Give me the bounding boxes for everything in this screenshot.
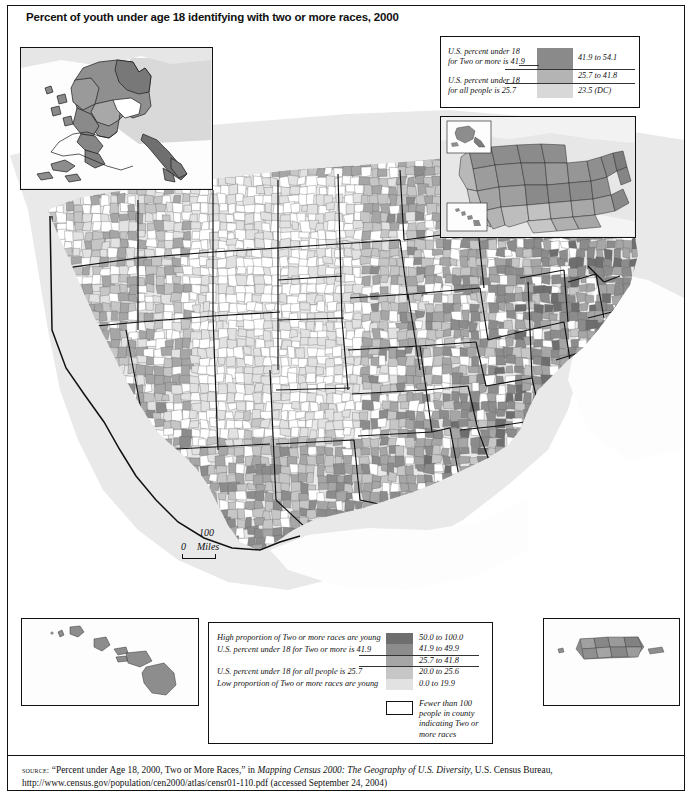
county-polygon <box>489 274 501 282</box>
county-polygon <box>263 275 273 285</box>
county-polygon <box>216 248 225 259</box>
legend-main-swatch-column <box>386 633 413 690</box>
county-polygon <box>379 355 386 365</box>
county-polygon <box>218 348 228 359</box>
county-polygon <box>388 393 399 402</box>
county-polygon <box>316 455 324 465</box>
county-polygon <box>203 301 210 312</box>
county-polygon <box>405 465 413 475</box>
county-polygon <box>146 302 154 310</box>
source-text-1: “Percent under Age 18, 2000, Two or More… <box>52 765 258 775</box>
county-polygon <box>318 230 326 240</box>
county-polygon <box>533 329 543 341</box>
county-polygon <box>468 366 480 373</box>
county-polygon <box>252 446 261 456</box>
county-polygon <box>459 456 471 464</box>
county-polygon <box>263 285 272 295</box>
county-polygon <box>440 258 452 267</box>
county-polygon <box>162 395 170 401</box>
county-polygon <box>73 248 80 256</box>
county-polygon <box>353 393 362 402</box>
county-polygon <box>350 375 358 384</box>
county-polygon <box>307 473 314 483</box>
county-polygon <box>244 204 256 213</box>
county-polygon <box>273 402 284 409</box>
alaska-inset[interactable]: 100 0 Miles <box>20 47 213 190</box>
county-polygon <box>154 313 163 320</box>
county-polygon <box>208 322 217 331</box>
puerto-rico-inset[interactable]: 0 100 Miles <box>543 618 680 706</box>
legend-main-nodata-line-3: indicating Two or <box>419 719 478 729</box>
county-polygon <box>309 238 317 249</box>
county-polygon <box>441 285 451 295</box>
county-polygon <box>570 277 579 288</box>
legend-top-swatch-2 <box>537 83 573 98</box>
county-polygon <box>496 356 506 365</box>
county-polygon <box>174 302 182 314</box>
legend-main-nodata-swatch <box>386 701 413 715</box>
county-polygon <box>496 429 506 439</box>
county-polygon <box>334 365 344 376</box>
county-polygon <box>154 220 165 231</box>
county-polygon <box>163 312 172 320</box>
county-polygon <box>190 355 201 364</box>
county-polygon <box>362 474 374 484</box>
county-polygon <box>256 185 265 193</box>
county-polygon <box>164 428 174 435</box>
county-polygon <box>351 166 361 176</box>
county-polygon <box>373 203 380 212</box>
county-polygon <box>308 447 317 456</box>
county-polygon <box>460 356 470 366</box>
county-polygon <box>505 337 513 346</box>
county-polygon <box>369 463 378 475</box>
county-polygon <box>190 383 199 393</box>
county-polygon <box>460 239 471 248</box>
state-inset[interactable] <box>440 116 636 238</box>
county-polygon <box>201 285 209 293</box>
county-polygon <box>459 320 469 329</box>
county-polygon <box>333 463 345 474</box>
county-polygon <box>174 213 181 223</box>
legend-top-rule-2 <box>505 83 635 84</box>
county-polygon <box>397 375 407 383</box>
county-polygon <box>496 409 506 417</box>
county-polygon <box>450 410 460 422</box>
county-polygon <box>405 366 416 376</box>
county-polygon <box>368 346 379 354</box>
county-polygon <box>156 276 164 286</box>
county-polygon <box>316 301 324 312</box>
county-polygon <box>252 437 263 444</box>
county-polygon <box>182 193 190 202</box>
source-divider <box>8 755 685 756</box>
county-polygon <box>431 438 442 446</box>
county-polygon <box>454 285 463 293</box>
county-polygon <box>152 257 163 267</box>
county-polygon <box>417 230 426 240</box>
county-polygon <box>252 374 262 383</box>
county-polygon <box>587 247 595 259</box>
county-polygon <box>372 185 382 194</box>
county-polygon <box>74 212 83 224</box>
county-polygon <box>110 285 121 294</box>
county-polygon <box>265 203 271 213</box>
county-polygon <box>266 492 274 502</box>
county-polygon <box>623 248 630 259</box>
county-polygon <box>89 294 101 303</box>
county-polygon <box>145 374 156 384</box>
county-polygon <box>299 232 310 238</box>
county-polygon <box>271 220 282 233</box>
county-polygon <box>425 240 434 251</box>
county-polygon <box>236 293 245 302</box>
county-polygon <box>443 364 452 375</box>
county-polygon <box>424 463 436 474</box>
county-polygon <box>218 230 228 238</box>
county-polygon <box>290 186 301 194</box>
county-polygon <box>505 249 513 256</box>
county-polygon <box>148 401 157 411</box>
hawaii-inset[interactable]: 100 0 Miles <box>21 618 199 706</box>
county-polygon <box>434 464 444 472</box>
county-polygon <box>244 430 252 439</box>
source-label: source: <box>22 766 49 775</box>
county-polygon <box>487 393 497 402</box>
county-polygon <box>353 313 362 321</box>
